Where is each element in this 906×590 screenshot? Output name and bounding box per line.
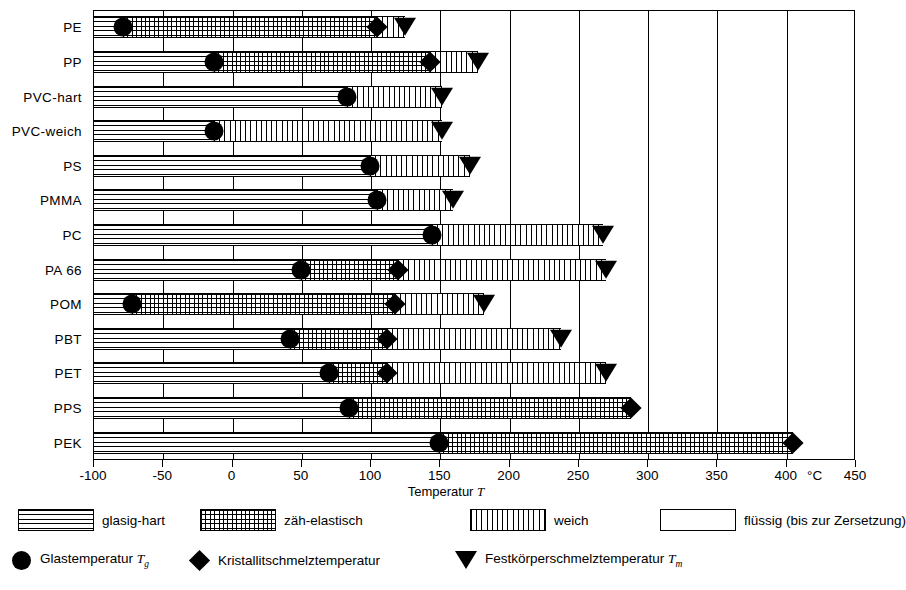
legend-item-circle: Glastemperatur Tg [10,545,149,575]
legend-marker-diamond-icon [188,553,210,568]
bar-row [93,16,855,38]
legend-swatch-glasig [18,509,94,531]
bar-row [93,362,855,384]
category-label-ps: PS [63,158,82,173]
legend-label-triangle: Festkörperschmelztemperatur Tm [485,551,682,569]
glass-temperature-marker [430,433,449,452]
bar-row [93,224,855,246]
legend-label-weich: weich [554,513,589,528]
legend-item-weich: weich [470,505,589,535]
category-axis: PEPPPVC-hartPVC-weichPSPMMAPCPA 66POMPBT… [0,10,90,460]
x-tick-250 [578,460,579,467]
x-tick-label-350: 350 [705,468,728,483]
x-tick-label-250: 250 [567,468,590,483]
glass-temperature-marker [423,226,442,245]
bar-row [93,120,855,142]
bar-segment-glasig [93,86,347,108]
bar-segment-glasig [93,432,439,454]
bar-segment-zaeh [439,432,792,454]
legend-row-patterns: glasig-hartzäh-elastischweichflüssig (bi… [0,505,892,535]
solid-melt-temperature-marker [595,364,617,382]
x-axis-title: Temperatur T [0,484,892,500]
legend-swatch-fluessig [660,509,736,531]
legend-item-diamond: Kristallitschmelztemperatur [188,545,380,575]
x-tick-300 [647,460,648,467]
bar-segment-glasig [93,259,301,281]
legend-label-circle: Glastemperatur Tg [40,551,149,569]
bar-row [93,259,855,281]
triangle-icon [455,551,477,569]
x-axis-unit: °C [807,468,822,483]
solid-melt-temperature-marker [431,122,453,140]
circle-icon [12,551,31,570]
bar-segment-glasig [93,120,214,142]
bar-segment-glasig [93,397,349,419]
solid-melt-temperature-marker [459,156,481,174]
category-label-pvc-weich: PVC-weich [12,124,82,139]
bar-row [93,328,855,350]
bars-layer [93,10,855,460]
glass-temperature-marker [204,122,223,141]
bar-segment-weich [387,362,606,384]
bar-segment-zaeh [290,328,387,350]
bar-segment-glasig [93,189,377,211]
x-tick-label-400: 400 [774,468,797,483]
bar-segment-glasig [93,362,329,384]
solid-melt-temperature-marker [442,191,464,209]
bar-segment-zaeh [349,397,630,419]
x-tick-label-0: 0 [228,468,236,483]
category-label-pom: POM [50,297,82,312]
bar-segment-weich [347,86,443,108]
diamond-icon [188,549,209,570]
bar-segment-weich [214,120,443,142]
x-tick-label-50: 50 [293,468,308,483]
bar-row [93,432,855,454]
category-label-pvc-hart: PVC-hart [23,89,82,104]
bar-segment-weich [370,155,470,177]
glass-temperature-marker [319,364,338,383]
glass-temperature-marker [204,52,223,71]
x-tick-label-150: 150 [428,468,451,483]
x-tick-100 [370,460,371,467]
legend-marker-triangle-icon [455,551,477,569]
x-tick-0 [232,460,233,467]
legend-swatch-zaeh [200,509,276,531]
x-tick-450 [855,460,856,467]
legend-row-markers: Glastemperatur TgKristallitschmelztemper… [0,545,892,575]
bar-segment-zaeh [123,16,377,38]
solid-melt-temperature-marker [394,18,416,36]
glass-temperature-marker [361,156,380,175]
legend-label-zaeh: zäh-elastisch [284,513,363,528]
x-tick-50 [301,460,302,467]
solid-melt-temperature-marker [595,260,617,278]
glass-temperature-marker [368,191,387,210]
solid-melt-temperature-marker [473,295,495,313]
x-tick-label-300: 300 [636,468,659,483]
category-label-pet: PET [55,366,82,381]
x-tick-350 [716,460,717,467]
x-tick-label--100: -100 [79,468,106,483]
bar-segment-weich [398,259,606,281]
legend-item-glasig: glasig-hart [18,505,165,535]
bar-row [93,293,855,315]
category-label-pp: PP [63,54,82,69]
legend: glasig-hartzäh-elastischweichflüssig (bi… [0,505,892,590]
bar-segment-weich [387,328,562,350]
bar-row [93,86,855,108]
bar-segment-zaeh [301,259,398,281]
solid-melt-temperature-marker [592,226,614,244]
legend-label-fluessig: flüssig (bis zur Zersetzung) [744,513,906,528]
solid-melt-temperature-marker [431,87,453,105]
bar-segment-glasig [93,224,432,246]
x-axis-title-symbol: T [477,484,484,499]
bar-row [93,155,855,177]
bar-segment-glasig [93,51,214,73]
x-tick-400 [786,460,787,467]
bar-segment-weich [395,293,484,315]
bar-row [93,189,855,211]
x-tick-label-450: 450 [844,468,867,483]
solid-melt-temperature-marker [467,53,489,71]
legend-item-triangle: Festkörperschmelztemperatur Tm [455,545,682,575]
bar-segment-glasig [93,155,370,177]
